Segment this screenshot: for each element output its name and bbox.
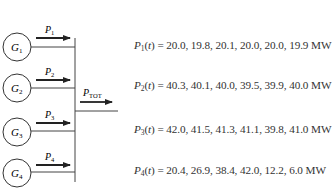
equation-p4: P4(t) = 20.4, 26.9, 38.4, 42.0, 12.2, 6.… — [134, 164, 326, 178]
power-label-2: P2 — [44, 66, 54, 78]
generator-4: G4 P4 — [3, 151, 75, 187]
generator-1: G1 P1 — [3, 24, 75, 61]
power-label-3: P3 — [44, 109, 54, 121]
equation-p3: P3(t) = 42.0, 41.5, 41.3, 41.1, 39.8, 41… — [134, 123, 331, 137]
total-output: PTOT — [75, 87, 118, 111]
equation-p1: P1(t) = 20.0, 19.8, 20.1, 20.0, 20.0, 19… — [134, 39, 331, 53]
generator-3: G3 P3 — [3, 109, 75, 146]
generator-2: G2 P2 — [3, 66, 75, 102]
equation-p2: P2(t) = 40.3, 40.1, 40.0, 39.5, 39.9, 40… — [134, 79, 331, 93]
power-label-4: P4 — [44, 151, 55, 163]
total-power-label: PTOT — [82, 87, 102, 99]
power-label-1: P1 — [44, 24, 54, 36]
